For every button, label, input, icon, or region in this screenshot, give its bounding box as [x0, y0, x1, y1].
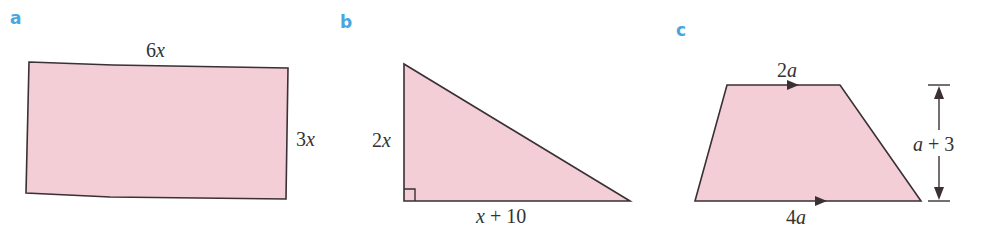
- triangle-base-length: x + 10: [475, 205, 526, 227]
- rectangle-shape: [26, 62, 288, 199]
- triangle-shape: [404, 64, 630, 201]
- rectangle-top-length: 6x: [146, 39, 165, 61]
- trapezium-top-length: 2a: [777, 59, 797, 81]
- figure-a-label: a: [10, 8, 21, 28]
- arrow-down-icon: [934, 187, 944, 200]
- rectangle-side-length: 3x: [296, 128, 315, 150]
- arrow-up-icon: [934, 86, 944, 99]
- trapezium-shape: [695, 85, 921, 201]
- figures-canvas: a 6x 3x b 2x x + 10 c 2a 4a a + 3: [0, 0, 985, 239]
- trapezium-height-length: a + 3: [913, 133, 954, 155]
- figure-b: b 2x x + 10: [340, 12, 630, 227]
- triangle-height-length: 2x: [372, 129, 391, 151]
- figure-b-label: b: [340, 12, 352, 32]
- trapezium-bottom-length: 4a: [786, 206, 806, 228]
- figure-c: c 2a 4a a + 3: [676, 20, 954, 228]
- height-dimension: a + 3: [913, 85, 954, 201]
- figure-a: a 6x 3x: [10, 8, 315, 199]
- figure-c-label: c: [676, 20, 686, 40]
